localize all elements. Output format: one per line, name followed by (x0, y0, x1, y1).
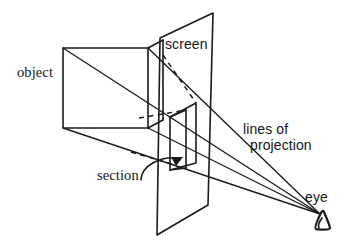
object-cube-front-face (63, 48, 148, 128)
dashed-line-upper (163, 55, 196, 103)
object-cube-bottom-depth-edge (148, 120, 163, 128)
eye-icon-pupil-arc (319, 218, 322, 228)
label-section: section (97, 167, 139, 183)
label-object: object (17, 64, 53, 80)
label-screen: screen (165, 37, 208, 53)
label-lines-of-projection-line1: lines of (243, 121, 288, 137)
object-cube (63, 40, 163, 128)
label-eye: eye (305, 190, 328, 206)
section-inner-bottom-edge (170, 168, 186, 170)
label-lines-of-projection: lines ofprojection (243, 122, 312, 153)
object-cube-top-depth-edge (148, 40, 163, 48)
label-lines-of-projection-line2: projection (250, 138, 312, 154)
perspective-projection-figure: object screen section lines ofprojection… (0, 0, 355, 248)
